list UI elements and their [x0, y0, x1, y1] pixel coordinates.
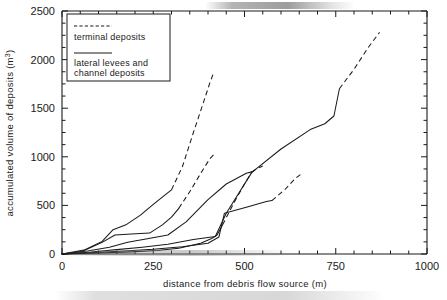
- x-tick-label-0: 0: [59, 260, 65, 272]
- y-tick-label-500: 500: [37, 199, 55, 211]
- curve-2: [62, 153, 215, 254]
- x-tick-label-250: 250: [144, 260, 162, 272]
- legend-label-lateral-levees-line2: channel deposits: [74, 68, 145, 78]
- curve-1: [62, 73, 213, 254]
- y-axis-title-main: accumulated volume of deposits (m: [4, 57, 15, 216]
- chart-figure: 02505007501000 05001000150020002500 term…: [0, 0, 447, 300]
- y-tick-label-2500: 2500: [31, 5, 55, 17]
- curve-2-lateral-levee-segment: [62, 208, 179, 254]
- curve-3-lateral-levee-segment: [62, 172, 252, 254]
- y-tick-label-0: 0: [49, 248, 55, 260]
- y-tick-label-1000: 1000: [31, 151, 55, 163]
- y-axis-title-tail: ): [4, 49, 15, 52]
- x-tick-labels: 02505007501000: [59, 260, 439, 272]
- curve-3: [62, 166, 263, 254]
- y-tick-label-1500: 1500: [31, 102, 55, 114]
- curve-5-terminal-deposit-segment: [272, 173, 303, 201]
- curve-4-lateral-levee-segment: [62, 89, 339, 254]
- curve-1-terminal-deposit-segment: [172, 73, 214, 190]
- x-axis-title: distance from debris flow source (m): [163, 278, 327, 289]
- y-tick-labels: 05001000150020002500: [31, 5, 55, 260]
- debris-flow-volume-chart: 02505007501000 05001000150020002500 term…: [0, 0, 447, 300]
- svg-text:accumulated volume of deposits: accumulated volume of deposits (m3): [4, 49, 15, 216]
- y-axis-title: accumulated volume of deposits (m3): [4, 49, 15, 216]
- curve-2-terminal-deposit-segment: [179, 153, 216, 208]
- curve-1-lateral-levee-segment: [62, 190, 172, 254]
- y-tick-label-2000: 2000: [31, 54, 55, 66]
- x-tick-label-750: 750: [327, 260, 345, 272]
- x-tick-label-1000: 1000: [415, 260, 439, 272]
- curve-4-terminal-deposit-segment: [339, 32, 379, 88]
- x-tick-label-500: 500: [235, 260, 253, 272]
- legend-label-terminal-deposits: terminal deposits: [74, 32, 146, 42]
- legend-label-lateral-levees-line1: lateral levees and: [74, 58, 148, 68]
- chart-legend: terminal deposits lateral levees and cha…: [67, 14, 170, 81]
